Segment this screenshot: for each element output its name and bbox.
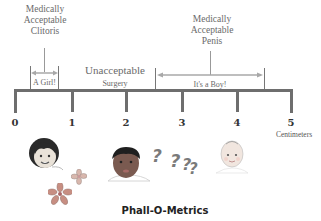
girl-face-icon [28,136,64,172]
penis-bracket-right [264,68,265,90]
question-mark-icon: ? [152,146,162,166]
flower-icon [71,169,87,185]
ruler-tick-0 [14,89,17,113]
tick-label-1: 1 [65,117,79,128]
tick-label-4: 4 [230,117,244,128]
ruler-tick-4 [236,89,239,112]
heading-line: Medically [16,4,74,15]
flower-icon [48,183,72,205]
ruler-bar [14,89,293,92]
tick-label-0: 0 [8,117,22,128]
heading-line: Medically [180,14,244,25]
girl-label: A Girl! [30,78,59,87]
penis-range-arrow [157,72,263,78]
unacceptable-heading: Unacceptable [72,64,158,77]
boy-label: It's a Boy! [156,80,264,89]
ruler-tick-1 [71,89,74,112]
surgery-label: Surgery [72,79,158,88]
clitoris-heading: Medically Acceptable Clitoris [16,4,74,37]
clitoris-pointer-line [44,48,45,72]
baby-face-icon [214,139,250,175]
tick-label-3: 3 [175,117,189,128]
unit-label: Centimeters [268,131,320,140]
ruler-tick-2 [125,89,128,112]
question-mark-icon: ? [170,150,180,171]
question-mark-icon: ? [189,160,198,178]
penis-heading: Medically Acceptable Penis [180,14,244,47]
tick-label-2: 2 [119,117,133,128]
clitoris-range-arrow [31,70,58,76]
child-face-icon [104,145,152,183]
ruler-tick-5 [290,89,293,113]
diagram-title: Phall-O-Metrics [110,205,220,216]
ruler-tick-3 [181,89,184,112]
heading-line: Penis [180,36,244,47]
heading-line: Acceptable [180,25,244,36]
tick-label-5: 5 [284,117,298,128]
heading-line: Acceptable [16,15,74,26]
heading-line: Clitoris [16,26,74,37]
